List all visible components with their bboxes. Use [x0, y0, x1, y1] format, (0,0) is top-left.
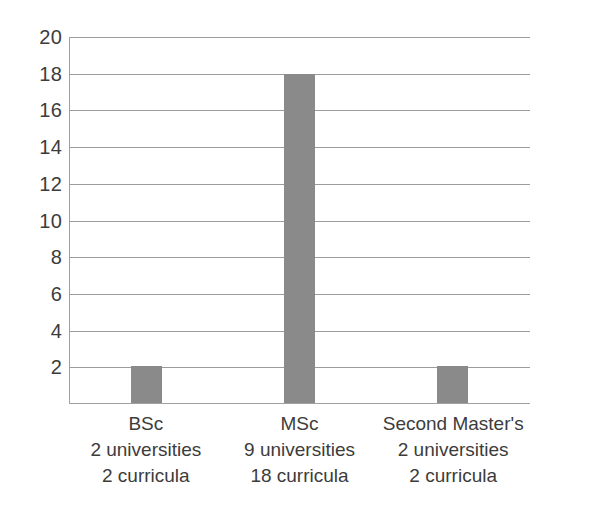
y-tick-label: 4 [51, 321, 62, 341]
x-tick-label-group: MSc9 universities18 curricula [223, 411, 377, 490]
y-tick-label: 10 [39, 211, 62, 231]
bar [284, 74, 315, 403]
bar [131, 366, 162, 403]
bar-chart: 2018161412108642 BSc2 universities2 curr… [0, 0, 597, 520]
y-tick-label: 2 [51, 357, 62, 377]
y-tick-label: 14 [39, 137, 62, 157]
bar [437, 366, 468, 403]
x-tick-label-universities: 9 universities [223, 437, 377, 463]
bar-series [70, 37, 529, 403]
x-tick-label-universities: 2 universities [376, 437, 530, 463]
x-tick-label-category: MSc [223, 411, 377, 437]
y-tick-label: 8 [51, 247, 62, 267]
x-tick-label-category: BSc [69, 411, 223, 437]
y-tick-label: 20 [39, 27, 62, 47]
x-tick-label-curricula: 2 curricula [376, 463, 530, 489]
x-axis-labels: BSc2 universities2 curriculaMSc9 univers… [69, 411, 530, 490]
y-tick-label: 18 [39, 64, 62, 84]
y-tick-label: 6 [51, 284, 62, 304]
x-tick-label-category: Second Master's [376, 411, 530, 437]
x-tick-label-universities: 2 universities [69, 437, 223, 463]
x-tick-label-group: BSc2 universities2 curricula [69, 411, 223, 490]
y-tick-label: 16 [39, 100, 62, 120]
x-tick-label-curricula: 18 curricula [223, 463, 377, 489]
x-tick-label-group: Second Master's2 universities2 curricula [376, 411, 530, 490]
y-axis-labels: 2018161412108642 [0, 37, 62, 404]
y-tick-label: 12 [39, 174, 62, 194]
x-tick-label-curricula: 2 curricula [69, 463, 223, 489]
